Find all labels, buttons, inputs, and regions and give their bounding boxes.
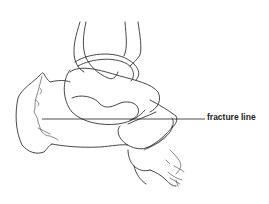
talus-neck xyxy=(72,96,139,120)
fracture-edge-detail xyxy=(36,88,50,134)
bone-line-drawing xyxy=(0,0,269,204)
fracture-edge xyxy=(34,76,58,140)
calcaneus-posterior xyxy=(16,75,52,153)
calcaneus-bottom xyxy=(52,144,128,147)
metatarsal-4 xyxy=(170,150,181,174)
metatarsal-2 xyxy=(134,166,146,184)
metatarsal-3 xyxy=(150,170,176,186)
tibia-left-inner xyxy=(83,22,86,58)
calcaneocuboid-joint xyxy=(146,126,172,148)
fibula-right-edge xyxy=(130,22,141,66)
talus-dome xyxy=(75,54,139,80)
fracture-line-label: fracture line xyxy=(207,112,256,122)
metatarsal-1 xyxy=(128,150,150,171)
bone-diagram: fracture line xyxy=(0,0,269,204)
fibula-right-inner xyxy=(124,22,126,56)
tibia-left-edge xyxy=(74,22,84,72)
